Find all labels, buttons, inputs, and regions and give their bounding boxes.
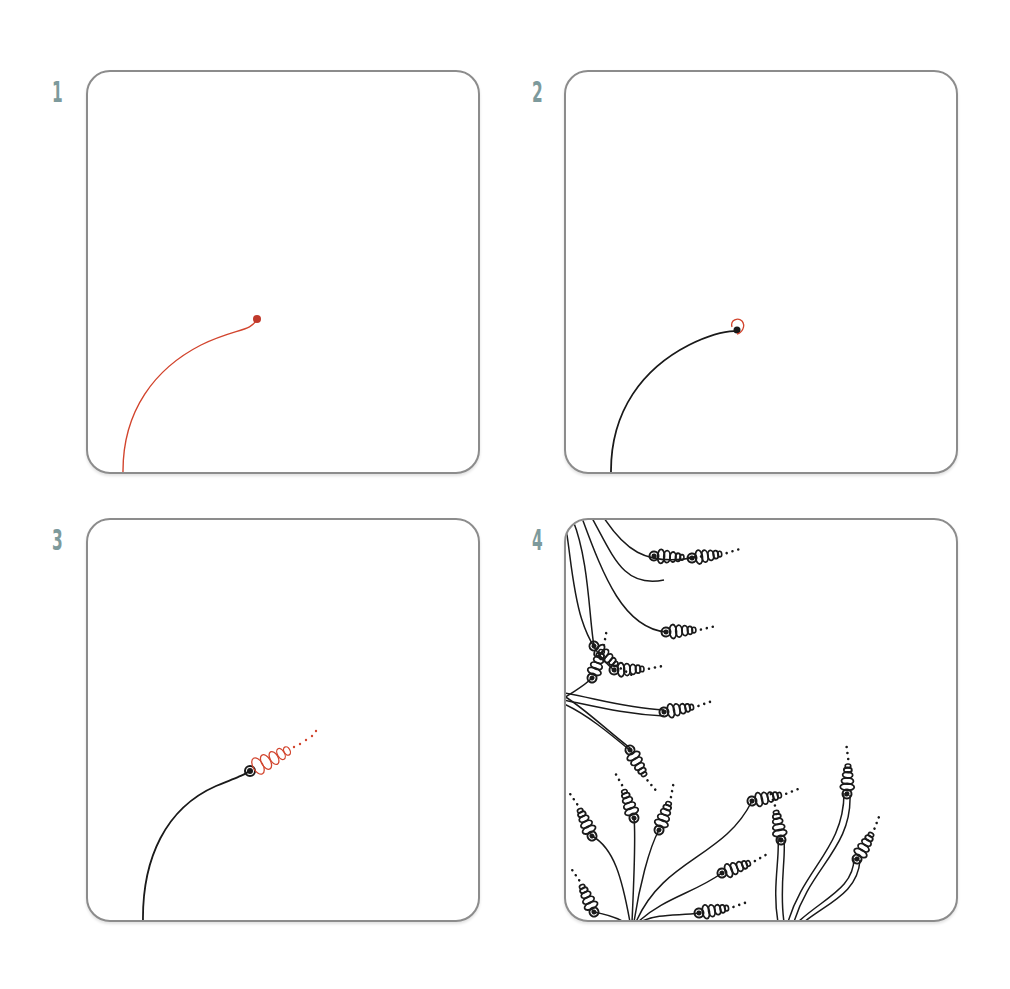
step-4-drawing: [564, 518, 958, 922]
step-panel-4: [564, 518, 958, 922]
step-number-2: 2: [532, 76, 543, 109]
step-panel-1: [86, 70, 480, 474]
step-3-drawing: [86, 518, 480, 922]
step-number-1: 1: [52, 76, 63, 109]
step-2-drawing: [564, 70, 958, 474]
step-panel-2: [564, 70, 958, 474]
step-number-4: 4: [532, 524, 543, 557]
step-panel-3: [86, 518, 480, 922]
step-number-3: 3: [52, 524, 63, 557]
step-1-drawing: [86, 70, 480, 474]
